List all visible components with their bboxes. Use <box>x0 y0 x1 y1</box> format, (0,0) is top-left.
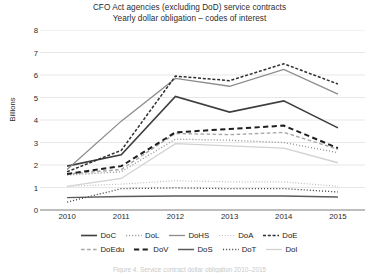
legend-row-1: DoCDoLDoHSDoADoE <box>0 231 379 240</box>
y-tick-label: 7 <box>20 48 38 57</box>
series-line-doa <box>67 181 338 187</box>
legend-item-doi[interactable]: DoI <box>266 245 297 254</box>
legend-label: DoS <box>197 245 212 254</box>
legend-label: DoV <box>153 245 168 254</box>
legend-swatch-icon <box>266 246 282 253</box>
y-tick-label: 6 <box>20 71 38 80</box>
x-tick-label: 2011 <box>99 212 143 221</box>
legend-label: DoC <box>100 231 116 240</box>
chart-figure: CFO Act agencies (excluding DoD) service… <box>0 0 379 274</box>
series-line-dos <box>67 196 338 198</box>
x-axis-ticks: 201020112012201320142015 <box>0 212 379 226</box>
legend-label: DoA <box>238 231 253 240</box>
legend-label: DoE <box>282 231 297 240</box>
legend-swatch-icon <box>134 246 150 253</box>
figure-caption: Figure 4. Service contract dollar obliga… <box>0 266 379 273</box>
legend-item-dov[interactable]: DoV <box>134 245 168 254</box>
y-tick-label: 3 <box>20 138 38 147</box>
series-line-doedu <box>67 132 338 174</box>
legend-swatch-icon <box>223 246 239 253</box>
legend-label: DoEdu <box>100 245 124 254</box>
plot-area <box>40 30 365 210</box>
x-tick-label: 2012 <box>153 212 197 221</box>
y-tick-label: 4 <box>20 116 38 125</box>
legend-item-doc[interactable]: DoC <box>81 231 116 240</box>
legend-item-dohs[interactable]: DoHS <box>169 231 209 240</box>
legend-swatch-icon <box>219 232 235 239</box>
chart-canvas <box>40 30 365 212</box>
x-tick-label: 2015 <box>316 212 360 221</box>
legend-item-doedu[interactable]: DoEdu <box>81 245 124 254</box>
legend-item-dos[interactable]: DoS <box>178 245 212 254</box>
series-line-dohs <box>67 69 338 169</box>
y-tick-label: 2 <box>20 161 38 170</box>
legend-label: DoHS <box>188 231 209 240</box>
legend-label: DoL <box>145 231 159 240</box>
y-tick-label: 8 <box>20 26 38 35</box>
series-line-dot <box>67 188 338 202</box>
y-tick-label: 1 <box>20 183 38 192</box>
y-tick-label: 5 <box>20 93 38 102</box>
x-tick-label: 2010 <box>45 212 89 221</box>
legend-swatch-icon <box>126 232 142 239</box>
legend-label: DoI <box>285 245 297 254</box>
legend-item-doe[interactable]: DoE <box>263 231 297 240</box>
series-line-doe <box>67 64 338 172</box>
legend-swatch-icon <box>178 246 194 253</box>
x-tick-label: 2013 <box>208 212 252 221</box>
legend-swatch-icon <box>169 232 185 239</box>
x-tick-label: 2014 <box>262 212 306 221</box>
legend-label: DoT <box>242 245 257 254</box>
legend-swatch-icon <box>263 232 279 239</box>
legend-swatch-icon <box>81 246 97 253</box>
chart-title-block: CFO Act agencies (excluding DoD) service… <box>0 3 379 24</box>
chart-subtitle: Yearly dollar obligation – codes of inte… <box>0 14 379 25</box>
legend-item-dol[interactable]: DoL <box>126 231 159 240</box>
chart-title: CFO Act agencies (excluding DoD) service… <box>0 3 379 14</box>
legend-item-doa[interactable]: DoA <box>219 231 253 240</box>
legend-item-dot[interactable]: DoT <box>223 245 257 254</box>
legend-swatch-icon <box>81 232 97 239</box>
legend-row-2: DoEduDoVDoSDoTDoI <box>0 245 379 254</box>
